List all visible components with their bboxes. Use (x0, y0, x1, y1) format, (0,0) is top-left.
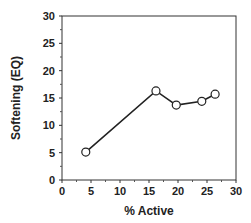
y-axis-label: Softening (EQ) (9, 56, 23, 140)
y-tick-label: 20 (43, 65, 55, 77)
x-tick-label: 25 (201, 185, 213, 197)
x-tick-label: 20 (172, 185, 184, 197)
x-tick-label: 30 (230, 185, 242, 197)
x-tick-label: 10 (114, 185, 126, 197)
line-chart: 051015202530 051015202530 % Active Softe… (0, 0, 251, 223)
y-tick-label: 0 (49, 174, 55, 186)
data-point-marker (211, 90, 219, 98)
data-point-marker (172, 101, 180, 109)
y-tick-label: 30 (43, 10, 55, 22)
x-axis-label: % Active (124, 204, 174, 218)
series-line (86, 91, 215, 152)
data-series (82, 87, 219, 156)
x-tick-label: 15 (143, 185, 155, 197)
x-tick-label: 0 (59, 185, 65, 197)
data-point-marker (152, 87, 160, 95)
y-tick-label: 25 (43, 37, 55, 49)
x-tick-label: 5 (88, 185, 94, 197)
data-point-marker (82, 148, 90, 156)
y-axis-ticks: 051015202530 (43, 10, 62, 186)
x-axis-ticks: 051015202530 (59, 180, 242, 197)
y-tick-label: 15 (43, 92, 55, 104)
data-point-marker (198, 97, 206, 105)
y-tick-label: 5 (49, 147, 55, 159)
y-tick-label: 10 (43, 119, 55, 131)
